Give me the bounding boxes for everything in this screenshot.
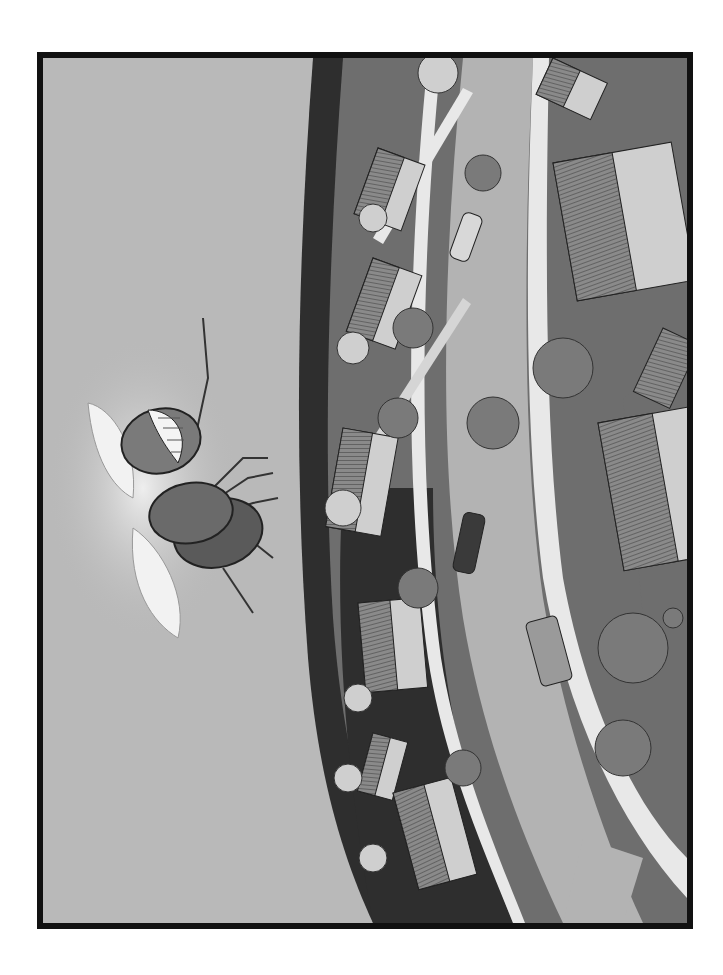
illustration-canvas: [43, 58, 687, 923]
house: [553, 142, 687, 301]
house: [358, 598, 428, 693]
illustration-frame: [37, 52, 693, 929]
